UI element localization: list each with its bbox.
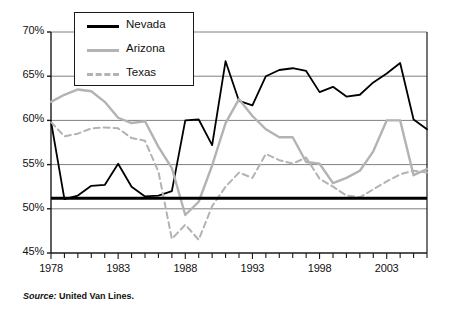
x-axis-label: 2003 xyxy=(367,262,407,274)
y-axis-label: 65% xyxy=(23,68,44,80)
x-axis-label: 1993 xyxy=(232,262,272,274)
x-axis-label: 1998 xyxy=(300,262,340,274)
chart-legend: NevadaArizonaTexas xyxy=(74,12,194,86)
x-axis-label: 1988 xyxy=(165,262,205,274)
legend-item-arizona: Arizona xyxy=(75,38,195,62)
y-axis-label: 45% xyxy=(23,245,44,257)
legend-item-texas: Texas xyxy=(75,62,195,86)
legend-swatch-arizona xyxy=(87,49,119,52)
source-label: Source: xyxy=(23,291,57,301)
legend-label-nevada: Nevada xyxy=(126,18,166,30)
x-axis-label: 1983 xyxy=(98,262,138,274)
legend-swatch-texas xyxy=(87,73,119,76)
x-axis-label: 1978 xyxy=(31,262,71,274)
y-axis-label: 50% xyxy=(23,201,44,213)
series-line-arizona xyxy=(51,89,427,215)
source-note: Source: United Van Lines. xyxy=(23,291,134,301)
legend-item-nevada: Nevada xyxy=(75,14,195,38)
legend-swatch-nevada xyxy=(87,25,119,28)
chart-figure: NevadaArizonaTexas Source: United Van Li… xyxy=(0,0,453,315)
y-axis-label: 60% xyxy=(23,112,44,124)
legend-label-texas: Texas xyxy=(126,66,156,78)
y-axis-label: 70% xyxy=(23,24,44,36)
y-axis-label: 55% xyxy=(23,157,44,169)
legend-label-arizona: Arizona xyxy=(126,42,165,54)
source-value: United Van Lines. xyxy=(59,291,134,301)
